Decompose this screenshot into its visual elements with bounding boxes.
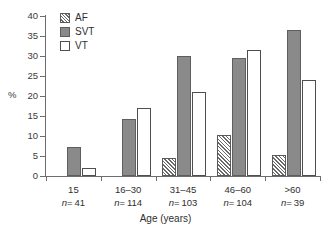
x-axis-category-label: >60 xyxy=(257,184,328,197)
x-axis-category: >60n= 39 xyxy=(257,184,328,210)
y-axis-tick-label: 10 xyxy=(10,131,38,141)
plot-area xyxy=(46,16,320,176)
x-axis-tick xyxy=(320,176,321,181)
bar-svt xyxy=(287,30,301,176)
y-axis-tick-label: 40 xyxy=(10,11,38,21)
y-axis-tick xyxy=(40,36,45,37)
bar-chart-figure: AFSVTVT 0510152025303540 % 15n= 4116–30n… xyxy=(0,0,331,237)
bar-vt xyxy=(302,80,316,176)
y-axis-tick xyxy=(40,116,45,117)
bar-svt xyxy=(67,147,81,176)
y-axis-tick-label: 15 xyxy=(10,111,38,121)
bar-af xyxy=(217,135,231,176)
bar-group xyxy=(101,16,156,176)
x-axis-tick xyxy=(156,176,157,181)
x-axis-tick xyxy=(265,176,266,181)
bar-svt xyxy=(232,58,246,176)
y-axis-tick xyxy=(40,76,45,77)
bar-group xyxy=(156,16,211,176)
bar-svt xyxy=(177,56,191,176)
bar-vt xyxy=(247,50,261,176)
y-axis-tick-label: 5 xyxy=(10,151,38,161)
y-axis-tick xyxy=(40,96,45,97)
y-axis-tick-label: 35 xyxy=(10,31,38,41)
bar-af xyxy=(162,158,176,176)
y-axis-title: % xyxy=(8,90,16,100)
y-axis-tick-label: 30 xyxy=(10,51,38,61)
x-axis-line xyxy=(45,176,321,177)
x-axis-title: Age (years) xyxy=(0,213,331,224)
y-axis-tick xyxy=(40,156,45,157)
bar-group xyxy=(210,16,265,176)
y-axis-tick xyxy=(40,56,45,57)
bar-vt xyxy=(137,108,151,176)
y-axis-tick xyxy=(40,16,45,17)
bar-af xyxy=(272,155,286,176)
y-axis-tick-label: 0 xyxy=(10,171,38,181)
y-axis-tick-label: 25 xyxy=(10,71,38,81)
bar-group xyxy=(46,16,101,176)
bar-vt xyxy=(82,168,96,176)
bar-group xyxy=(265,16,320,176)
y-axis-tick xyxy=(40,176,45,177)
x-axis-tick xyxy=(101,176,102,181)
x-axis-tick xyxy=(46,176,47,181)
bar-vt xyxy=(192,92,206,176)
bar-svt xyxy=(122,119,136,176)
x-axis-tick xyxy=(210,176,211,181)
y-axis-tick xyxy=(40,136,45,137)
x-axis-category-count: n= 39 xyxy=(257,197,328,210)
